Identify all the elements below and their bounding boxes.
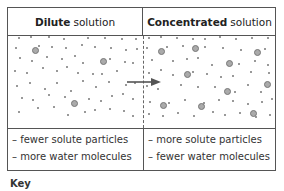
water-molecule (149, 101, 151, 103)
water-molecule (124, 61, 126, 63)
solute-particle (198, 103, 205, 110)
solute-particle (224, 88, 231, 95)
water-molecule (184, 99, 186, 101)
water-molecule (261, 101, 263, 103)
concentrated-point-2: – fewer water molecules (148, 151, 270, 162)
solute-particle (158, 48, 165, 55)
water-molecule (70, 90, 72, 92)
water-molecule (271, 98, 273, 100)
water-molecule (56, 70, 58, 72)
water-molecule (29, 82, 31, 84)
water-molecule (30, 36, 32, 38)
solute-particle (32, 47, 39, 54)
water-molecule (88, 98, 90, 100)
concentrated-header: Concentrated solution (143, 8, 276, 36)
water-molecule (267, 37, 269, 39)
water-molecule (38, 45, 40, 47)
water-molecule (214, 86, 216, 88)
water-molecule (148, 113, 150, 115)
water-molecule (110, 47, 112, 49)
water-molecule (42, 67, 44, 69)
water-molecule (81, 44, 83, 46)
water-molecule (111, 95, 113, 97)
water-molecule (100, 100, 102, 102)
water-molecule (172, 60, 174, 62)
water-molecule (132, 62, 134, 64)
water-molecule (31, 60, 33, 62)
water-molecule (101, 73, 103, 75)
dilute-header: Dilute solution (8, 8, 143, 36)
water-molecule (212, 111, 214, 113)
water-molecule (162, 115, 164, 117)
solute-particle (250, 110, 257, 117)
solute-particle (192, 45, 199, 52)
water-molecule (250, 71, 252, 73)
water-molecule (64, 96, 66, 98)
key-label: Key (10, 178, 31, 189)
water-molecule (104, 37, 106, 39)
water-molecule (77, 72, 79, 74)
water-molecule (46, 56, 48, 58)
water-molecule (186, 58, 188, 60)
water-molecule (108, 81, 110, 83)
water-molecule (247, 84, 249, 86)
water-molecule (235, 38, 237, 40)
water-molecule (48, 36, 50, 38)
water-molecule (254, 60, 256, 62)
water-molecule (192, 38, 194, 40)
water-molecule (234, 91, 236, 93)
water-molecule (206, 73, 208, 75)
water-molecule (220, 76, 222, 78)
water-molecule (269, 114, 271, 116)
water-molecule (197, 57, 199, 59)
water-molecule (16, 85, 18, 87)
water-molecule (123, 110, 125, 112)
water-molecule (14, 70, 16, 72)
water-molecule (109, 108, 111, 110)
water-molecule (51, 46, 53, 48)
solute-particle (160, 102, 167, 109)
water-molecule (148, 72, 150, 74)
water-molecule (160, 36, 162, 38)
water-molecule (219, 36, 221, 38)
arrow-icon (127, 77, 161, 87)
row-divider (8, 128, 275, 129)
water-molecule (53, 106, 55, 108)
water-molecule (18, 37, 20, 39)
solute-particle (184, 71, 191, 78)
water-molecule (65, 47, 67, 49)
dilute-point-2: – more water molecules (12, 151, 132, 162)
water-molecule (222, 47, 224, 49)
water-molecule (19, 57, 21, 59)
dilute-point-1: – fewer solute particles (12, 134, 128, 145)
water-molecule (260, 91, 262, 93)
solute-particle (264, 81, 271, 88)
water-molecule (204, 46, 206, 48)
dilute-header-rest: solution (73, 16, 115, 28)
water-molecule (264, 48, 266, 50)
water-molecule (67, 114, 69, 116)
concentrated-point-1: – more solute particles (148, 134, 262, 145)
water-molecule (157, 88, 159, 90)
column-divider (143, 128, 144, 170)
water-molecule (166, 46, 168, 48)
water-molecule (247, 103, 249, 105)
water-molecule (61, 58, 63, 60)
water-molecule (95, 86, 97, 88)
water-molecule (136, 48, 138, 50)
water-molecule (56, 82, 58, 84)
water-molecule (192, 71, 194, 73)
water-molecule (197, 86, 199, 88)
water-molecule (268, 72, 270, 74)
water-molecule (204, 38, 206, 40)
dilute-header-bold: Dilute (35, 16, 71, 28)
water-molecule (132, 115, 134, 117)
water-molecule (151, 59, 153, 61)
water-molecule (240, 49, 242, 51)
water-molecule (193, 115, 195, 117)
water-molecule (172, 74, 174, 76)
water-molecule (109, 58, 111, 60)
water-molecule (18, 111, 20, 113)
water-molecule (232, 100, 234, 102)
solute-particle (71, 100, 78, 107)
